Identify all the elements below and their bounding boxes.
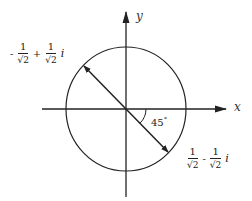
denominator: √2 [45, 54, 56, 65]
imag-fraction: 1 √2 [210, 146, 221, 170]
operator: - [202, 153, 205, 164]
numerator: 1 [46, 41, 56, 54]
angle-value: 45 [151, 117, 164, 128]
angle-unit: ° [164, 116, 168, 124]
numerator: 1 [210, 146, 220, 159]
denominator: √2 [210, 159, 221, 170]
angle-label: 45° [151, 116, 167, 128]
numerator: 1 [18, 41, 28, 54]
point-label-lower-right: 1 √2 - 1 √2 i [187, 146, 229, 170]
imaginary-unit: i [225, 152, 229, 165]
numerator: 1 [188, 146, 198, 159]
denominator: √2 [187, 159, 198, 170]
angle-arc [140, 109, 146, 123]
imaginary-unit: i [61, 47, 65, 60]
imag-fraction: 1 √2 [45, 41, 56, 65]
real-fraction: 1 √2 [187, 146, 198, 170]
operator: + [33, 48, 41, 59]
vector-upper-left [84, 66, 126, 109]
denominator: √2 [17, 54, 28, 65]
point-label-upper-left: - 1 √2 + 1 √2 i [10, 41, 64, 65]
x-axis-label: x [234, 101, 241, 113]
complex-plane-diagram [0, 0, 252, 201]
y-axis-label: y [136, 10, 143, 22]
real-fraction: 1 √2 [17, 41, 28, 65]
sign: - [10, 48, 13, 59]
